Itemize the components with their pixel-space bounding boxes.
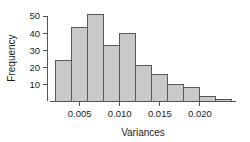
histogram-bar [200, 96, 216, 101]
x-axis-title: Variances [121, 127, 165, 138]
y-tick-label: 40 [29, 28, 40, 39]
x-tick-label: 0.010 [108, 108, 132, 119]
histogram-figure: 1020304050 0.0050.0100.0150.020 Variance… [0, 0, 250, 142]
histogram-bar [152, 74, 168, 101]
x-axis: 0.0050.0100.0150.020 [50, 102, 236, 119]
histogram-bar [72, 28, 88, 102]
x-axis-ticks: 0.0050.0100.0150.020 [68, 102, 212, 119]
y-tick-label: 50 [29, 10, 40, 21]
y-tick-label: 10 [29, 79, 40, 90]
histogram-bar [56, 60, 72, 101]
x-tick-label: 0.020 [188, 108, 212, 119]
histogram-bars [56, 14, 232, 101]
y-axis-ticks: 1020304050 [29, 10, 47, 89]
x-tick-label: 0.015 [148, 108, 172, 119]
y-axis: 1020304050 [29, 10, 47, 101]
histogram-bar [104, 45, 120, 101]
histogram-bar [184, 88, 200, 102]
y-tick-label: 30 [29, 45, 40, 56]
y-axis-title: Frequency [6, 34, 17, 81]
y-tick-label: 20 [29, 62, 40, 73]
x-tick-label: 0.005 [68, 108, 92, 119]
histogram-bar [120, 33, 136, 101]
histogram-bar [88, 14, 104, 101]
histogram-plot: 1020304050 0.0050.0100.0150.020 Variance… [0, 0, 250, 142]
histogram-bar [136, 66, 152, 102]
histogram-bar [168, 84, 184, 101]
